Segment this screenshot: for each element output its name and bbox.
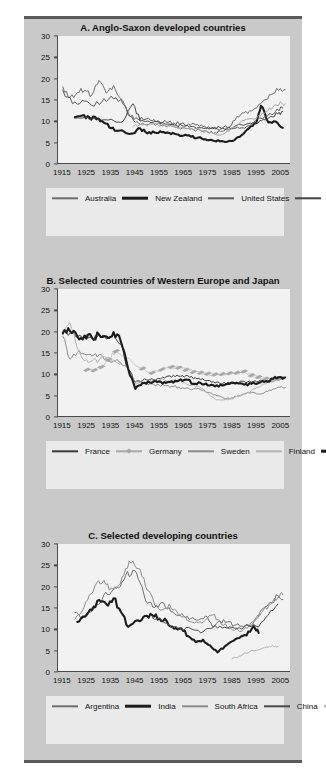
series-line (75, 570, 283, 627)
panel-a-plot: 051015202530 191519251935194519551965197… (24, 36, 302, 186)
panel-b: B. Selected countries of Western Europe … (24, 275, 302, 489)
x-tick-label: 1985 (223, 168, 241, 177)
panel-b-series-svg (58, 289, 290, 416)
x-tick-label: 1915 (53, 676, 71, 685)
y-tick-label: 30 (41, 285, 50, 294)
panel-b-title: B. Selected countries of Western Europe … (24, 275, 302, 286)
legend-item[interactable]: Japan (321, 445, 326, 458)
y-tick-label: 10 (41, 370, 50, 379)
x-tick-label: 1995 (247, 168, 265, 177)
legend-item[interactable]: India (125, 700, 175, 713)
legend-swatch-icon (52, 194, 78, 203)
legend-label: New Zealand (155, 194, 202, 203)
legend-swatch-icon (321, 447, 326, 456)
legend-item[interactable]: China (264, 700, 318, 713)
panel-c-plot: 051015202530 191519251935194519551965197… (24, 544, 302, 694)
x-tick-label: 1995 (247, 421, 265, 430)
y-tick-label: 10 (41, 117, 50, 126)
y-tick-label: 25 (41, 53, 50, 62)
legend-swatch-icon (208, 194, 234, 203)
legend-item[interactable]: New Zealand (122, 192, 202, 205)
panel-c-x-axis: 1915192519351945195519651975198519952005 (57, 676, 290, 690)
panel-c-legend-grid: ArgentinaIndiaSouth AfricaChinaIndonesia (52, 700, 278, 713)
x-tick-label: 2005 (271, 168, 289, 177)
y-tick-label: 30 (41, 540, 50, 549)
series-line (63, 323, 281, 400)
y-tick-label: 0 (46, 668, 50, 677)
panel-c: C. Selected developing countries 0510152… (24, 530, 302, 744)
x-tick-label: 1945 (126, 421, 144, 430)
bottom-rule (24, 760, 302, 763)
y-tick-label: 15 (41, 604, 50, 613)
legend-item[interactable]: Australia (52, 192, 116, 205)
legend-item[interactable]: France (52, 445, 110, 458)
panel-c-plot-area (57, 544, 290, 672)
x-tick-label: 1925 (77, 676, 95, 685)
x-tick-label: 1925 (77, 168, 95, 177)
x-tick-label: 1965 (174, 168, 192, 177)
legend-swatch-icon (264, 702, 290, 711)
y-tick-label: 15 (41, 349, 50, 358)
series-marker (189, 370, 197, 374)
legend-item[interactable]: South Africa (182, 700, 258, 713)
panel-a: A. Anglo-Saxon developed countries 05101… (24, 22, 302, 236)
legend-item[interactable]: Sweden (188, 445, 250, 458)
x-tick-label: 1955 (150, 676, 168, 685)
panel-a-x-axis: 1915192519351945195519651975198519952005 (57, 168, 290, 182)
panel-c-legend: ArgentinaIndiaSouth AfricaChinaIndonesia (46, 696, 284, 744)
x-tick-label: 1975 (199, 676, 217, 685)
legend-item[interactable]: United States (208, 192, 289, 205)
x-tick-label: 1975 (199, 168, 217, 177)
x-tick-label: 2005 (271, 676, 289, 685)
legend-swatch-icon (52, 447, 78, 456)
x-tick-label: 1915 (53, 421, 71, 430)
x-tick-label: 1915 (53, 168, 71, 177)
legend-item[interactable]: Finland (256, 445, 315, 458)
series-marker (175, 365, 183, 369)
x-tick-label: 1985 (223, 676, 241, 685)
legend-label: South Africa (215, 702, 258, 711)
x-tick-label: 1975 (199, 421, 217, 430)
x-tick-label: 1935 (101, 168, 119, 177)
legend-item[interactable]: Argentina (52, 700, 119, 713)
legend-swatch-icon (188, 447, 214, 456)
legend-label: China (297, 702, 318, 711)
y-tick-label: 25 (41, 306, 50, 315)
x-tick-label: 1965 (174, 421, 192, 430)
figure-root: A. Anglo-Saxon developed countries 05101… (0, 0, 326, 778)
series-marker (83, 368, 91, 372)
legend-item[interactable]: Germany (116, 445, 182, 458)
legend-item[interactable]: Canada (295, 192, 326, 205)
legend-label: India (158, 702, 175, 711)
x-tick-label: 1995 (247, 676, 265, 685)
series-line (232, 646, 278, 659)
legend-label: France (85, 447, 110, 456)
panel-b-plot-area (57, 289, 290, 417)
legend-swatch-icon (52, 702, 78, 711)
x-tick-label: 1955 (150, 168, 168, 177)
panel-a-legend: AustraliaNew ZealandUnited StatesCanadaU… (46, 188, 284, 236)
panel-b-y-axis: 051015202530 (24, 289, 54, 417)
x-tick-label: 1945 (126, 676, 144, 685)
y-tick-label: 25 (41, 561, 50, 570)
panel-c-series-svg (58, 544, 290, 671)
y-tick-label: 20 (41, 74, 50, 83)
panel-c-title: C. Selected developing countries (24, 530, 302, 541)
panel-a-title: A. Anglo-Saxon developed countries (24, 22, 302, 33)
legend-swatch-icon (182, 702, 208, 711)
series-marker (90, 368, 98, 372)
y-tick-label: 20 (41, 327, 50, 336)
series-marker (240, 369, 248, 373)
y-tick-label: 20 (41, 582, 50, 591)
y-tick-label: 0 (46, 413, 50, 422)
legend-swatch-icon (256, 447, 282, 456)
legend-label: Argentina (85, 702, 119, 711)
y-tick-label: 5 (46, 646, 50, 655)
y-tick-label: 15 (41, 96, 50, 105)
series-marker (233, 371, 241, 375)
y-tick-label: 5 (46, 138, 50, 147)
legend-swatch-icon (116, 447, 142, 456)
series-marker (225, 371, 233, 375)
y-tick-label: 10 (41, 625, 50, 634)
series-line (75, 561, 283, 632)
